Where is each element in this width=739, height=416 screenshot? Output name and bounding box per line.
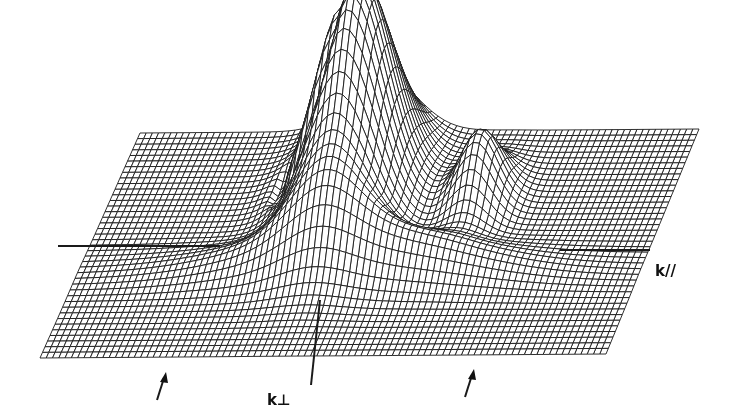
- axis-label-k-parallel: k//: [655, 264, 676, 279]
- surface-plot: [0, 0, 739, 416]
- axis-label-k-perpendicular: k⊥: [267, 393, 291, 408]
- wireframe-figure: k// k⊥: [0, 0, 739, 416]
